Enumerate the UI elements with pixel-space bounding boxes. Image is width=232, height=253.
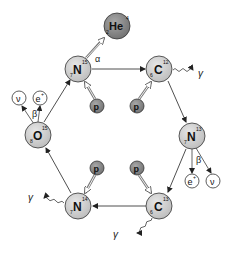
nucleus-c12: C 12 6 (146, 56, 172, 82)
svg-text:e: e (188, 177, 193, 187)
svg-text:N: N (187, 130, 196, 144)
svg-text:O: O (33, 129, 42, 143)
svg-text:N: N (73, 200, 82, 214)
svg-text:p: p (94, 164, 100, 174)
svg-text:C: C (154, 63, 163, 77)
svg-text:15: 15 (42, 125, 48, 131)
positron-o15: e + (33, 91, 47, 105)
svg-text:12: 12 (163, 59, 169, 65)
svg-text:7: 7 (70, 209, 73, 215)
nucleus-c13: C 13 6 (146, 193, 172, 219)
alpha-label: α (95, 54, 100, 64)
svg-text:e: e (36, 94, 41, 104)
nucleus-he4: He 4 2 (104, 13, 130, 39)
svg-text:7: 7 (184, 139, 187, 145)
cno-cycle-diagram: γ γ γ α β β He 4 2 N 15 7 C 12 6 N 13 7 … (0, 0, 232, 253)
arrow-o15-to-n15 (44, 80, 70, 122)
nucleus-n15: N 15 7 (65, 56, 91, 82)
svg-text:4: 4 (126, 15, 129, 21)
svg-text:13: 13 (196, 126, 202, 132)
gamma-label-c12: γ (198, 68, 204, 79)
arrow-n14-to-o15 (46, 148, 71, 193)
proton-2: p (130, 99, 144, 113)
svg-text:p: p (94, 102, 100, 112)
svg-text:8: 8 (30, 138, 33, 144)
arrow-c12-to-n13 (168, 81, 186, 122)
svg-text:6: 6 (150, 209, 153, 215)
proton-1: p (90, 99, 104, 113)
svg-text:15: 15 (82, 59, 88, 65)
gamma-label-n14: γ (28, 192, 34, 203)
svg-text:He: He (109, 20, 123, 32)
nucleus-n13: N 13 7 (179, 123, 205, 149)
svg-text:6: 6 (150, 72, 153, 78)
proton-3: p (90, 161, 104, 175)
positron-n13: e + (185, 174, 199, 188)
svg-text:p: p (134, 164, 140, 174)
gamma-label-c13: γ (113, 229, 119, 240)
beta-label-n13: β (196, 155, 201, 165)
svg-text:ν: ν (16, 94, 21, 104)
proton-4: p (130, 161, 144, 175)
nucleus-o15: O 15 8 (25, 122, 51, 148)
beta-label-o15: β (32, 109, 37, 119)
svg-text:+: + (41, 91, 44, 97)
svg-text:C: C (154, 200, 163, 214)
nucleus-n14: N 14 7 (65, 193, 91, 219)
svg-text:N: N (73, 63, 82, 77)
svg-text:14: 14 (82, 196, 88, 202)
svg-text:p: p (134, 102, 140, 112)
svg-text:13: 13 (163, 196, 169, 202)
svg-text:7: 7 (70, 72, 73, 78)
neutrino-o15: ν (12, 91, 26, 105)
svg-text:ν: ν (210, 177, 215, 187)
arrow-n13-to-c13 (168, 149, 186, 192)
neutrino-n13: ν (206, 174, 220, 188)
svg-text:2: 2 (106, 29, 109, 35)
cycle-arrows (44, 69, 186, 206)
svg-text:+: + (193, 174, 196, 180)
